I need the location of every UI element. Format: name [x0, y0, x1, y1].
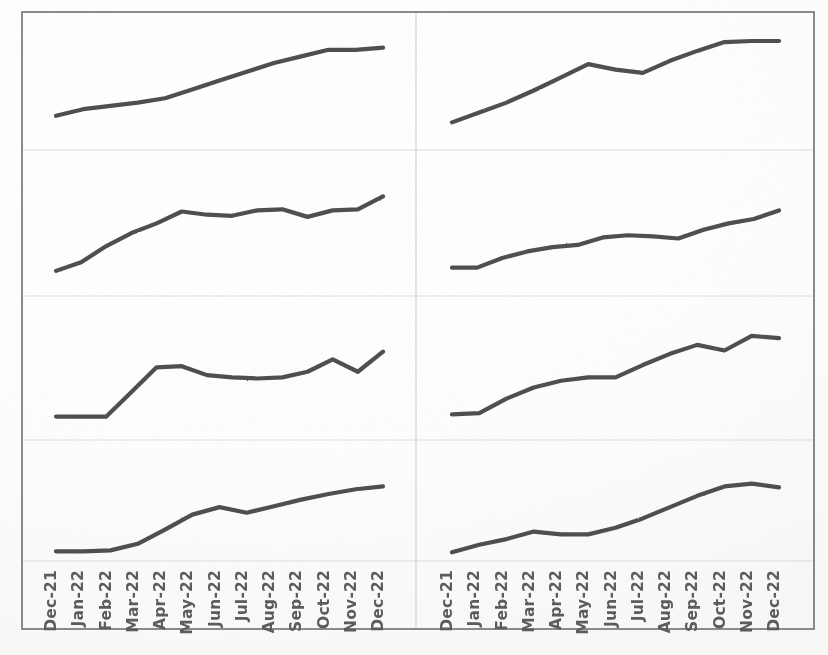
figure-border: [22, 12, 814, 629]
series-line-panel-bottom-left: [56, 486, 383, 551]
x-tick-label: Oct-22: [315, 570, 333, 629]
x-tick-label: Dec-21: [42, 570, 60, 632]
x-tick-label: Dec-21: [438, 570, 456, 632]
gridlines: [23, 150, 813, 561]
x-tick-label: Feb-22: [97, 570, 115, 631]
series-line-panel-second-right: [452, 210, 779, 267]
x-tick-label: Dec-22: [369, 570, 387, 632]
x-tick-label: Jul-22: [233, 570, 251, 622]
x-tick-label: Apr-22: [151, 570, 169, 630]
x-tick-label: Nov-22: [342, 570, 360, 633]
x-tick-label: Nov-22: [738, 570, 756, 633]
series-lines-layer: [56, 41, 779, 552]
x-tick-label: Apr-22: [547, 570, 565, 630]
x-tick-label: Jun-22: [206, 570, 224, 628]
series-line-panel-top-left: [56, 48, 383, 116]
x-tick-label: May-22: [178, 570, 196, 635]
x-tick-label: Jul-22: [629, 570, 647, 622]
series-line-panel-third-left: [56, 352, 383, 417]
x-tick-label: Aug-22: [260, 570, 278, 633]
x-tick-label: Jan-22: [465, 570, 483, 627]
series-line-panel-second-left: [56, 196, 383, 271]
x-tick-label: Mar-22: [124, 570, 142, 633]
x-axis-labels-left: Dec-21Jan-22Feb-22Mar-22Apr-22May-22Jun-…: [42, 570, 387, 635]
x-tick-label: Dec-22: [765, 570, 783, 632]
x-tick-label: Aug-22: [656, 570, 674, 633]
x-tick-label: Mar-22: [520, 570, 538, 633]
x-tick-label: Jan-22: [69, 570, 87, 627]
x-axis-labels-right: Dec-21Jan-22Feb-22Mar-22Apr-22May-22Jun-…: [438, 570, 783, 635]
x-tick-label: May-22: [574, 570, 592, 635]
series-line-panel-bottom-right: [452, 484, 779, 553]
x-tick-label: Sep-22: [287, 570, 305, 632]
x-tick-label: Jun-22: [602, 570, 620, 628]
x-tick-label: Oct-22: [711, 570, 729, 629]
series-line-panel-top-right: [452, 41, 779, 122]
x-tick-label: Feb-22: [493, 570, 511, 631]
x-tick-label: Sep-22: [683, 570, 701, 632]
small-multiples-chart: Dec-21Jan-22Feb-22Mar-22Apr-22May-22Jun-…: [0, 0, 828, 655]
series-line-panel-third-right: [452, 336, 779, 414]
